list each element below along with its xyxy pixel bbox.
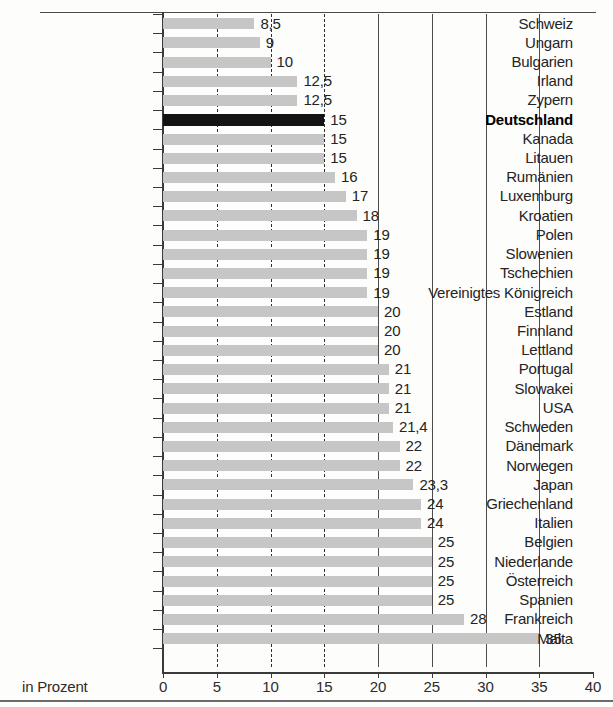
category-label: Malta (273, 630, 573, 647)
y-tick (153, 475, 162, 476)
value-label: 15 (330, 111, 346, 128)
bar-schweiz (163, 18, 254, 29)
bar-row: Slowenien19 (163, 245, 593, 264)
x-tick-label-5: 5 (197, 678, 237, 695)
x-tick-label-15: 15 (304, 678, 344, 695)
x-tick-label-0: 0 (143, 678, 183, 695)
category-label: Litauen (273, 149, 573, 166)
category-label: Finnland (273, 322, 573, 339)
bar-row: Niederlande25 (163, 552, 593, 571)
value-label: 21 (395, 399, 411, 416)
value-label: 24 (427, 495, 443, 512)
x-tick-label-35: 35 (519, 678, 559, 695)
bar-row: Estland20 (163, 302, 593, 321)
category-label: Rumänien (273, 168, 573, 185)
value-label: 21 (395, 380, 411, 397)
value-label: 19 (373, 284, 389, 301)
value-label: 25 (438, 591, 454, 608)
category-label: Luxemburg (273, 187, 573, 204)
category-label: Deutschland (273, 111, 573, 128)
bar-row: Griechenland24 (163, 495, 593, 514)
bar-row: Slowakei21 (163, 379, 593, 398)
bar-row: Portugal21 (163, 360, 593, 379)
value-label: 19 (373, 245, 389, 262)
value-label: 25 (438, 533, 454, 550)
category-label: Lettland (273, 341, 573, 358)
bar-row: Japan23,3 (163, 475, 593, 494)
category-label: Österreich (273, 572, 573, 589)
x-tick-label-40: 40 (573, 678, 613, 695)
y-tick (153, 629, 162, 630)
y-tick (153, 264, 162, 265)
bar-row: Norwegen22 (163, 456, 593, 475)
x-tick-label-10: 10 (251, 678, 291, 695)
category-label: Polen (273, 226, 573, 243)
value-label: 20 (384, 341, 400, 358)
category-label: Schweiz (273, 15, 573, 32)
value-label: 20 (384, 322, 400, 339)
value-label: 22 (406, 437, 422, 454)
y-tick (153, 610, 162, 611)
category-label: Slowakei (273, 380, 573, 397)
y-tick (153, 72, 162, 73)
bar-row: Finnland20 (163, 322, 593, 341)
y-tick (153, 129, 162, 130)
y-tick (153, 187, 162, 188)
bar-row: Österreich25 (163, 571, 593, 590)
bar-row: Litauen15 (163, 149, 593, 168)
y-tick (153, 514, 162, 515)
y-tick (153, 302, 162, 303)
y-tick (153, 418, 162, 419)
value-label: 28 (470, 610, 486, 627)
y-tick (153, 206, 162, 207)
value-label: 19 (373, 226, 389, 243)
bar-row: Ungarn9 (163, 33, 593, 52)
y-tick (153, 91, 162, 92)
y-tick (153, 456, 162, 457)
x-tick-label-30: 30 (466, 678, 506, 695)
y-tick (153, 283, 162, 284)
y-tick (153, 648, 162, 649)
bar-row: Bulgarien10 (163, 52, 593, 71)
category-label: Vereinigtes Königreich (273, 284, 573, 301)
category-label: Niederlande (273, 553, 573, 570)
category-label: Griechenland (273, 495, 573, 512)
bar-bulgarien (163, 57, 271, 68)
bar-row: Dänemark22 (163, 437, 593, 456)
category-label: Ungarn (273, 34, 573, 51)
bar-row: Schweden21,4 (163, 418, 593, 437)
chart-page: 0510152025303540 Schweiz8,5Ungarn9Bulgar… (0, 0, 613, 707)
y-tick (153, 398, 162, 399)
value-label: 15 (330, 149, 346, 166)
category-label: Kroatien (273, 207, 573, 224)
category-label: Italien (273, 514, 573, 531)
y-tick (153, 552, 162, 553)
y-tick (153, 168, 162, 169)
value-label: 25 (438, 572, 454, 589)
bar-row: Kroatien18 (163, 206, 593, 225)
value-label: 8,5 (260, 15, 280, 32)
bar-row: Vereinigtes Königreich19 (163, 283, 593, 302)
category-label: USA (273, 399, 573, 416)
value-label: 12,5 (303, 72, 331, 89)
category-label: Slowenien (273, 245, 573, 262)
category-label: Kanada (273, 130, 573, 147)
bar-row: Malta35 (163, 629, 593, 648)
bar-row: Italien24 (163, 514, 593, 533)
bar-row: Lettland20 (163, 341, 593, 360)
value-label: 15 (330, 130, 346, 147)
category-label: Estland (273, 303, 573, 320)
x-tick-label-20: 20 (358, 678, 398, 695)
y-tick (153, 437, 162, 438)
category-label: Norwegen (273, 457, 573, 474)
value-label: 16 (341, 168, 357, 185)
bar-row: USA21 (163, 398, 593, 417)
top-rule (40, 12, 596, 13)
y-tick (153, 149, 162, 150)
value-label: 35 (545, 630, 561, 647)
bar-row: Zypern12,5 (163, 91, 593, 110)
y-tick (153, 379, 162, 380)
category-label: Frankreich (273, 610, 573, 627)
bar-row: Belgien25 (163, 533, 593, 552)
bar-ungarn (163, 37, 260, 48)
